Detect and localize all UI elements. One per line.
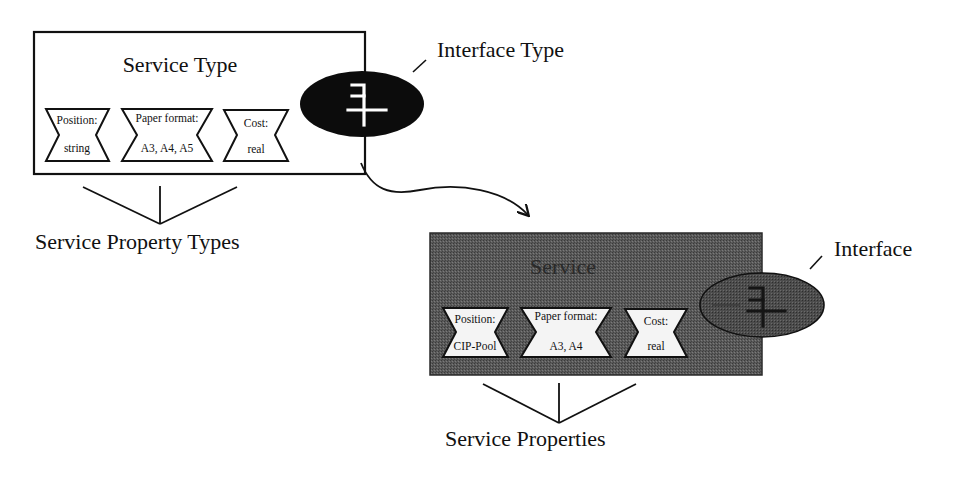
service-title: Service	[530, 254, 596, 279]
service-type-group: Service Type Position: string Paper form…	[34, 32, 564, 254]
properties-fan	[483, 383, 636, 423]
service-group: Service Position: CIP-Pool Paper format:…	[430, 233, 912, 451]
service-type-title: Service Type	[123, 52, 238, 77]
property-type-value: string	[64, 142, 90, 155]
property-type-name: Cost:	[244, 117, 268, 129]
property-type-name: Paper format:	[136, 112, 199, 125]
instantiation-arrow	[361, 163, 528, 215]
service-type-diagram: Service Type Position: string Paper form…	[0, 0, 960, 480]
interface-type-ellipse	[300, 71, 424, 137]
interface-ellipse	[700, 273, 824, 337]
property-types-fan	[83, 186, 237, 224]
property-name: Paper format:	[535, 310, 598, 323]
property-value: real	[647, 340, 664, 352]
property-value: CIP-Pool	[454, 340, 497, 352]
interface-leader	[810, 256, 822, 269]
service-properties-label: Service Properties	[445, 426, 606, 451]
service-property-types-label: Service Property Types	[35, 229, 240, 254]
property-type-value: A3, A4, A5	[141, 142, 194, 155]
property-value: A3, A4	[549, 340, 582, 353]
property-type-name: Position:	[57, 114, 98, 126]
interface-type-leader	[413, 60, 426, 72]
property-name: Position:	[455, 313, 496, 325]
interface-type-label: Interface Type	[437, 37, 564, 62]
property-type-value: real	[247, 143, 264, 155]
property-name: Cost:	[644, 315, 668, 327]
interface-label: Interface	[834, 236, 912, 261]
